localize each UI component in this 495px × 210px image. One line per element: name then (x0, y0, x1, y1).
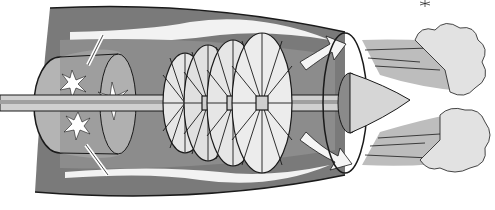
turbine-discs (163, 33, 292, 173)
jet-engine-illustration (0, 0, 495, 210)
spark-mark-icon (420, 0, 430, 7)
turbine-disc-4 (232, 33, 292, 173)
